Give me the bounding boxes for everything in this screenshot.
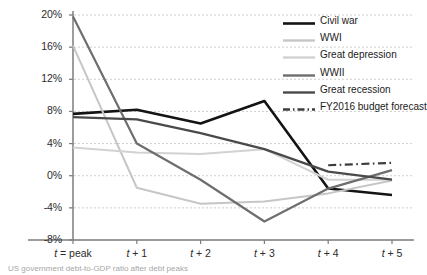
y-tick-label: 0% [18,169,62,181]
y-tick-label: -8% [18,233,62,245]
legend-swatch [283,84,315,95]
legend-label: WWII [320,67,344,78]
x-tick-label: t + 2 [166,247,236,259]
legend-label: FY2016 budget forecast [320,101,427,112]
x-tick-label: t + 1 [102,247,172,259]
legend-label: Civil war [320,15,358,26]
y-tick-label: 8% [18,104,62,116]
figure-caption: US government debt-to-GDP ratio after de… [8,264,420,275]
series-line-fy2016-budget-forecast [328,163,392,165]
y-tick-label: 12% [18,72,62,84]
legend-label: Great depression [320,49,397,60]
x-tick-label: t + 3 [229,247,299,259]
y-tick-label: 20% [18,8,62,20]
legend-item: WWII [283,64,418,81]
x-tick-label: t + 5 [357,247,427,259]
legend-label: WWI [320,32,342,43]
legend-swatch [283,101,315,112]
y-tick-label: 16% [18,40,62,52]
legend-label: Great recession [320,84,391,95]
legend-item: Civil war [283,12,418,29]
x-tick-label: t + 4 [293,247,363,259]
legend-item: FY2016 budget forecast [283,98,418,115]
chart-legend: Civil warWWIGreat depressionWWIIGreat re… [283,12,418,115]
legend-swatch [283,49,315,60]
legend-item: Great depression [283,46,418,63]
series-line-great-recession [73,117,392,180]
legend-item: WWI [283,29,418,46]
legend-item: Great recession [283,81,418,98]
legend-swatch [283,32,315,43]
legend-swatch [283,67,315,78]
x-tick-label: t = peak [38,247,108,259]
y-tick-label: 4% [18,137,62,149]
y-tick-label: -4% [18,201,62,213]
legend-swatch [283,15,315,26]
